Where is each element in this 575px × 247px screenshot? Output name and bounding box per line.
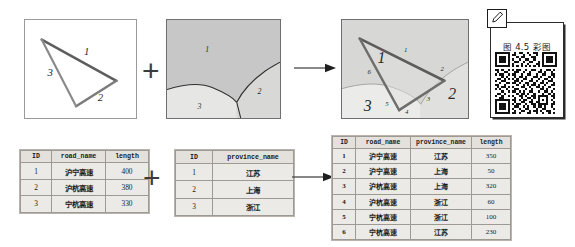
overlay-segment-label-4: 4	[405, 108, 409, 115]
cell-road: 沪杭高速	[356, 179, 411, 194]
cell-length: 230	[472, 224, 511, 239]
overlay-segment-label-5: 5	[385, 100, 389, 107]
operator-arrow-maps	[294, 63, 336, 73]
cell-road: 沪杭高速	[356, 194, 411, 209]
polygon-layer-graphic: 1 2 3	[167, 20, 280, 118]
road-table: ID road_name length 1 沪宁高速 400 2 沪杭高速 38…	[20, 150, 149, 213]
line-edge-label-1: 1	[84, 45, 89, 57]
table-row[interactable]: 6 宁杭高速 江苏 230	[333, 224, 511, 239]
overlay-result-table: ID road_name province_name length 1 沪宁高速…	[332, 136, 511, 240]
table-header-row: ID road_name length	[21, 151, 149, 163]
cell-province: 上海	[411, 164, 472, 179]
column-header-id: ID	[21, 151, 52, 163]
column-header-length: length	[472, 137, 511, 149]
table-row[interactable]: 3 浙江	[176, 198, 294, 215]
table-row[interactable]: 4 沪杭高速 浙江 60	[333, 194, 511, 209]
cell-id: 2	[176, 181, 213, 198]
operator-arrow-tables	[292, 172, 334, 182]
cell-road: 沪杭高速	[52, 179, 106, 195]
cell-road: 沪宁高速	[52, 163, 106, 179]
cell-province: 江苏	[411, 224, 472, 239]
table-row[interactable]: 2 沪宁高速 上海 50	[333, 164, 511, 179]
cell-id: 1	[21, 163, 52, 179]
cell-province: 上海	[213, 181, 294, 198]
overlay-region-label-1: 1	[377, 49, 385, 66]
polygon-region-label-2: 2	[257, 87, 261, 96]
overlay-result-graphic: 1 2 3 4 5 6 1 2 3	[342, 20, 468, 118]
cell-id: 1	[333, 149, 356, 164]
table-header-row: ID province_name	[176, 151, 294, 164]
cell-length: 330	[106, 196, 149, 212]
operator-plus-tables: +	[143, 163, 161, 193]
overlay-region-label-3: 3	[363, 97, 372, 114]
column-header-id: ID	[176, 151, 213, 164]
column-header-id: ID	[333, 137, 356, 149]
table-row[interactable]: 2 沪杭高速 380	[21, 179, 149, 195]
table-row[interactable]: 5 宁杭高速 浙江 100	[333, 209, 511, 224]
table-row[interactable]: 1 江苏	[176, 164, 294, 181]
qr-code[interactable]	[495, 52, 557, 114]
table-row[interactable]: 3 沪杭高速 上海 320	[333, 179, 511, 194]
cell-length: 60	[472, 194, 511, 209]
cell-road: 沪宁高速	[356, 164, 411, 179]
cell-length: 100	[472, 209, 511, 224]
table-row[interactable]: 1 沪宁高速 江苏 350	[333, 149, 511, 164]
cell-id: 5	[333, 209, 356, 224]
province-table: ID province_name 1 江苏 2 上海 3 浙江	[175, 150, 294, 216]
cell-province: 上海	[411, 179, 472, 194]
cell-id: 2	[333, 164, 356, 179]
column-header-province-name: province_name	[411, 137, 472, 149]
table-row[interactable]: 3 宁杭高速 330	[21, 196, 149, 212]
overlay-segment-label-1: 1	[404, 46, 407, 53]
line-layer-graphic: 1 2 3	[25, 20, 136, 118]
cell-id: 6	[333, 224, 356, 239]
map-panel-overlay-result: 1 2 3 4 5 6 1 2 3	[341, 19, 469, 119]
cell-id: 1	[176, 164, 213, 181]
map-panel-polygon-layer: 1 2 3	[166, 19, 281, 119]
cell-length: 50	[472, 164, 511, 179]
table-header-row: ID road_name province_name length	[333, 137, 511, 149]
cell-road: 宁杭高速	[356, 209, 411, 224]
cell-id: 3	[21, 196, 52, 212]
table-row[interactable]: 2 上海	[176, 181, 294, 198]
overlay-segment-label-3: 3	[426, 95, 431, 102]
cell-province: 浙江	[213, 198, 294, 215]
overlay-region-label-2: 2	[448, 85, 456, 102]
line-edge-label-2: 2	[98, 91, 104, 103]
figure-canvas: 1 2 3 + 1 2 3	[0, 0, 575, 247]
cell-province: 浙江	[411, 209, 472, 224]
line-edge-label-3: 3	[47, 66, 54, 78]
cell-id: 4	[333, 194, 356, 209]
column-header-road-name: road_name	[356, 137, 411, 149]
polygon-region-label-3: 3	[196, 102, 201, 111]
polygon-region-label-1: 1	[205, 45, 209, 54]
cell-road: 沪宁高速	[356, 149, 411, 164]
cell-id: 2	[21, 179, 52, 195]
cell-province: 浙江	[411, 194, 472, 209]
table-row[interactable]: 1 沪宁高速 400	[21, 163, 149, 179]
operator-plus-maps: +	[142, 56, 160, 86]
cell-province: 江苏	[213, 164, 294, 181]
cell-road: 宁杭高速	[52, 196, 106, 212]
figure-caption: 图 4.5 彩图	[492, 40, 562, 52]
cell-id: 3	[176, 198, 213, 215]
cell-road: 宁杭高速	[356, 224, 411, 239]
cell-length: 350	[472, 149, 511, 164]
overlay-segment-label-2: 2	[440, 65, 444, 72]
column-header-province-name: province_name	[213, 151, 294, 164]
column-header-road-name: road_name	[52, 151, 106, 163]
cell-province: 江苏	[411, 149, 472, 164]
overlay-segment-label-6: 6	[368, 68, 372, 75]
cell-id: 3	[333, 179, 356, 194]
pencil-edit-icon[interactable]	[487, 9, 507, 28]
cell-length: 320	[472, 179, 511, 194]
map-panel-line-layer: 1 2 3	[24, 19, 137, 119]
